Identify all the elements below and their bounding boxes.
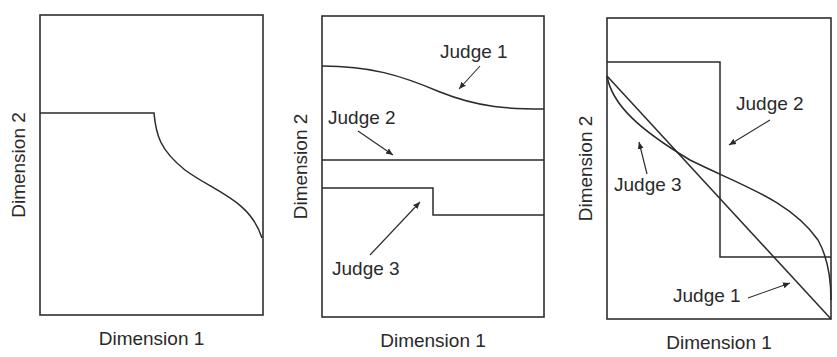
plot-frame [607, 18, 831, 319]
annotation-arrow [639, 142, 647, 174]
annotation-arrow [358, 131, 393, 155]
judge-1-curve [322, 66, 544, 109]
annotation-label: Judge 2 [328, 107, 396, 128]
y-axis-label: Dimension 2 [290, 114, 311, 220]
single-judge-curve [40, 113, 262, 238]
annotation-label: Judge 3 [614, 174, 682, 195]
x-axis-label: Dimension 1 [666, 332, 772, 353]
plot-frame [40, 15, 263, 315]
annotation-arrow [729, 120, 770, 145]
panel-2: Judge 1Judge 2Judge 3Dimension 1Dimensio… [290, 16, 544, 351]
judge-2-step [607, 62, 831, 257]
annotation-label: Judge 2 [736, 93, 804, 114]
annotation-label: Judge 3 [332, 258, 400, 279]
figure-canvas: Dimension 1Dimension 2Judge 1Judge 2Judg… [0, 0, 837, 357]
x-axis-label: Dimension 1 [99, 328, 205, 349]
judge-3-step [322, 188, 544, 215]
panel-1: Dimension 1Dimension 2 [8, 15, 263, 349]
annotation-label: Judge 1 [440, 41, 508, 62]
y-axis-label: Dimension 2 [8, 112, 29, 218]
panel-3: Judge 2Judge 3Judge 1Dimension 1Dimensio… [575, 18, 831, 353]
x-axis-label: Dimension 1 [380, 330, 486, 351]
annotation-label: Judge 1 [673, 285, 741, 306]
annotation-arrow [370, 202, 420, 255]
annotation-arrow [748, 283, 790, 298]
annotation-arrow [459, 66, 480, 89]
y-axis-label: Dimension 2 [575, 116, 596, 222]
